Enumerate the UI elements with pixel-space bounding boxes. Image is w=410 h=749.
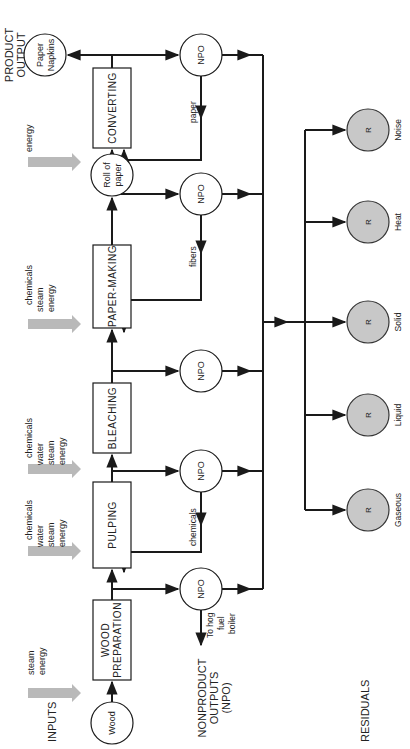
- inputs-label: INPUTS: [46, 702, 58, 742]
- svg-text:Wood: Wood: [107, 711, 117, 734]
- svg-text:WOOD: WOOD: [100, 623, 111, 657]
- svg-text:R: R: [364, 219, 373, 225]
- input-arrow-wood-prep: [28, 684, 81, 702]
- svg-text:energy: energy: [46, 284, 56, 312]
- svg-text:R: R: [364, 507, 373, 513]
- residual-label-liquid: Liquid: [393, 403, 403, 426]
- svg-text:NPO: NPO: [196, 184, 206, 204]
- svg-text:PAPER-MAKING: PAPER-MAKING: [107, 245, 118, 327]
- svg-text:water: water: [35, 443, 45, 466]
- svg-text:CONVERTING: CONVERTING: [107, 72, 118, 144]
- svg-text:Napkins: Napkins: [46, 38, 56, 71]
- svg-text:chemicals: chemicals: [24, 499, 34, 540]
- svg-text:(NPO): (NPO): [220, 682, 232, 713]
- svg-text:paper: paper: [113, 163, 123, 186]
- svg-text:NPO: NPO: [196, 45, 206, 65]
- residual-label-gaseous: Gaseous: [393, 493, 403, 527]
- input-arrow-converting: [28, 153, 81, 171]
- svg-text:fuel: fuel: [216, 616, 226, 630]
- hog-fuel-label: To hog fuel boiler: [205, 612, 237, 638]
- svg-text:energy: energy: [57, 519, 67, 547]
- svg-text:R: R: [364, 127, 373, 133]
- paper-napkin-process-diagram: INPUTS NONPRODUCT OUTPUTS (NPO) RESIDUAL…: [0, 0, 410, 749]
- product-output-label: PRODUCT OUTPUT: [3, 28, 27, 83]
- svg-text:PULPING: PULPING: [107, 501, 118, 548]
- svg-text:water: water: [35, 525, 45, 548]
- svg-text:NPO: NPO: [196, 361, 206, 381]
- svg-text:steam: steam: [46, 522, 56, 547]
- svg-text:PRODUCT: PRODUCT: [3, 28, 15, 83]
- svg-text:energy: energy: [24, 124, 34, 152]
- input-label: steam: [26, 650, 36, 675]
- input-arrows: [28, 153, 81, 702]
- residual-label-heat: Heat: [393, 212, 403, 231]
- svg-text:NPO: NPO: [196, 461, 206, 481]
- svg-text:chemicals: chemicals: [24, 264, 34, 305]
- svg-text:chemicals: chemicals: [24, 417, 34, 458]
- svg-text:steam: steam: [35, 287, 45, 312]
- svg-text:boiler: boiler: [227, 613, 237, 634]
- svg-text:R: R: [364, 319, 373, 325]
- recycle-fibers-label: fibers: [188, 246, 198, 267]
- residual-label-noise: Noise: [393, 119, 403, 141]
- svg-text:BLEACHING: BLEACHING: [107, 387, 118, 449]
- svg-text:OUTPUTS: OUTPUTS: [208, 672, 220, 725]
- svg-text:To hog: To hog: [205, 612, 215, 638]
- svg-text:NPO: NPO: [196, 579, 206, 599]
- svg-text:PREPARATION: PREPARATION: [112, 602, 123, 678]
- svg-text:steam: steam: [46, 440, 56, 465]
- input-label: energy: [37, 647, 47, 675]
- svg-text:NONPRODUCT: NONPRODUCT: [196, 658, 208, 737]
- residuals-label: RESIDUALS: [359, 680, 371, 742]
- input-arrow-paper-making: [28, 315, 81, 333]
- recycle-chemicals-label: chemicals: [188, 508, 198, 546]
- recycle-fibers: [124, 215, 201, 332]
- svg-text:Paper: Paper: [35, 43, 45, 67]
- svg-text:R: R: [364, 412, 373, 418]
- recycle-paper-label: paper: [188, 101, 198, 123]
- node-roll-of-paper: [91, 154, 133, 196]
- node-paper-napkins: [24, 34, 66, 76]
- nonproduct-outputs-label: NONPRODUCT OUTPUTS (NPO): [196, 658, 232, 737]
- residual-label-solid: Solid: [393, 312, 403, 331]
- input-labels: steam energy chemicals water steam energ…: [24, 124, 67, 675]
- svg-text:Roll of: Roll of: [102, 162, 112, 188]
- svg-text:energy: energy: [57, 437, 67, 465]
